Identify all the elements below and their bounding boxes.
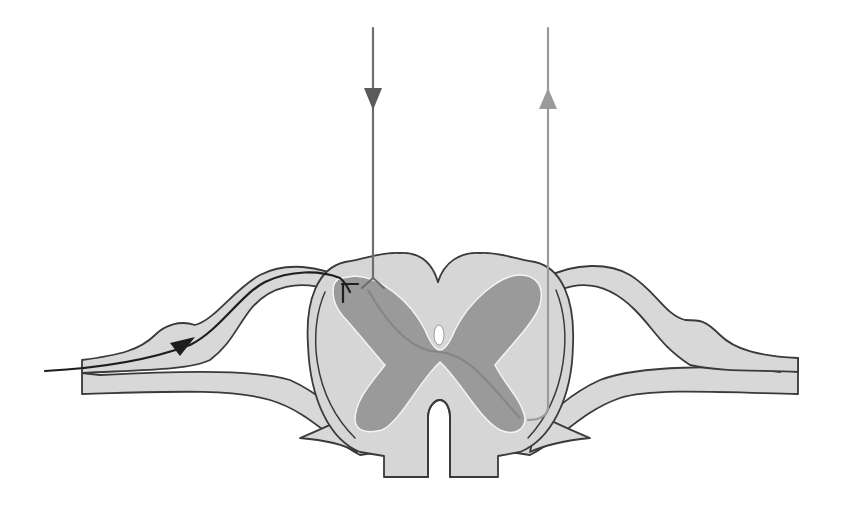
- ventral-median-fissure: [428, 400, 450, 477]
- descending-tract: [362, 28, 384, 288]
- right-dorsal-root-ganglion: [545, 266, 798, 372]
- left-dorsal-root-ganglion: [82, 267, 345, 373]
- down-arrow-icon: [364, 88, 382, 110]
- spinal-cord-diagram: [0, 0, 846, 515]
- up-arrow-icon: [539, 88, 557, 109]
- central-canal: [434, 325, 444, 345]
